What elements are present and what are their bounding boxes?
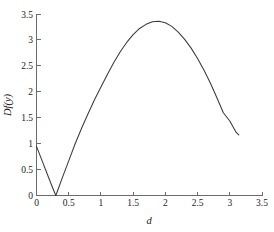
x-tick-label-0: 0 — [34, 198, 39, 208]
plot-svg: 0 0.5 1 1.5 2 2.5 3 3.5 0 0.5 1 1.5 2 2.… — [0, 0, 274, 232]
x-tick-label-5: 2.5 — [192, 198, 204, 208]
y-tick-label-5: 2.5 — [21, 61, 33, 71]
x-tick-label-6: 3 — [227, 198, 232, 208]
y-tick-label-4: 2 — [28, 87, 33, 97]
x-tick-label-2: 1 — [99, 198, 104, 208]
y-tick-label-7: 3.5 — [21, 10, 33, 20]
x-tick-label-1: 0.5 — [63, 198, 75, 208]
y-tick-label-2: 1 — [28, 139, 33, 149]
y-tick-label-1: 0.5 — [21, 165, 33, 175]
chart-figure: 0 0.5 1 1.5 2 2.5 3 3.5 0 0.5 1 1.5 2 2.… — [0, 0, 274, 232]
x-axis-title: d — [146, 215, 152, 226]
x-tick-label-7: 3.5 — [256, 198, 268, 208]
y-tick-label-3: 1.5 — [21, 113, 33, 123]
x-tick-label-3: 1.5 — [127, 198, 139, 208]
y-tick-label-0: 0 — [28, 191, 33, 201]
y-axis-title: Df(y) — [2, 93, 14, 117]
y-tick-label-6: 3 — [28, 35, 33, 45]
x-tick-label-4: 2 — [163, 198, 168, 208]
